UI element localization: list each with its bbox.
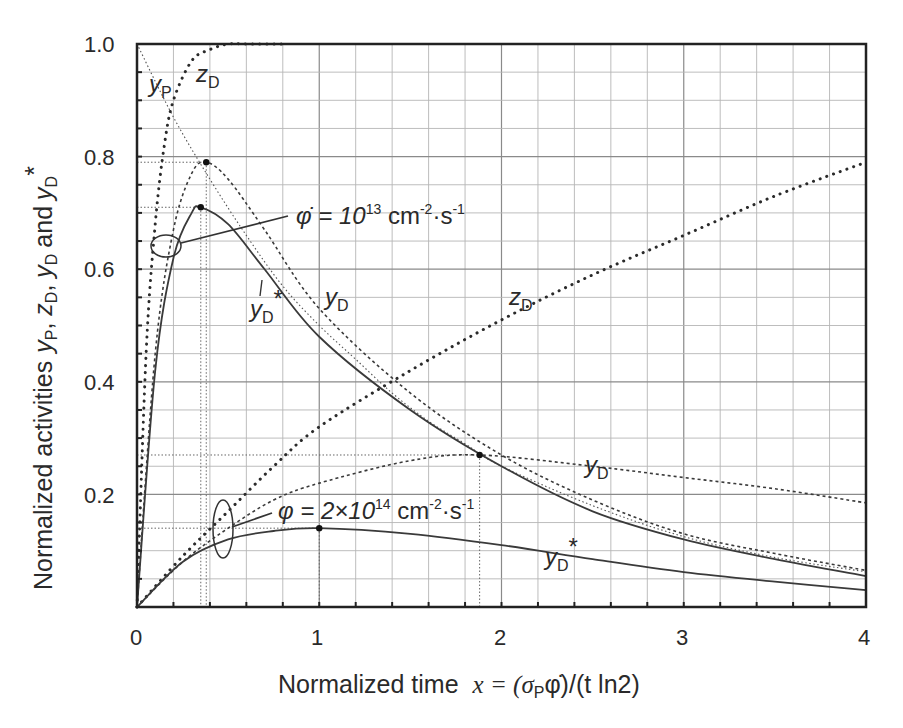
marker-point	[476, 452, 482, 458]
annotation-leader-low-flux	[232, 513, 272, 527]
x-axis-title: Normalized timex = (σPφ̇)/(t ln2)	[278, 670, 640, 701]
annotation-low-flux: φ = 2×1014 cm-2·s-1	[278, 496, 474, 524]
label-yP: yP	[147, 70, 172, 101]
yDstar-pointer	[260, 280, 262, 296]
x-tick-3: 3	[676, 625, 688, 650]
y-tick-0.4: 0.4	[84, 370, 115, 395]
y-tick-0.2: 0.2	[84, 483, 115, 508]
label-yDstar-high: yD*	[248, 285, 283, 326]
axis-ticks	[137, 72, 830, 607]
y-tick-0.6: 0.6	[84, 257, 115, 282]
activity-chart: 1.0 0.8 0.6 0.4 0.2 0 1 2 3 4 Normalized…	[0, 0, 903, 728]
x-tick-4: 4	[858, 625, 870, 650]
x-tick-labels: 0 1 2 3 4	[130, 625, 870, 650]
label-yD-high: yD	[323, 283, 349, 314]
label-zD-top: zD	[195, 60, 220, 91]
y-tick-1.0: 1.0	[84, 32, 115, 57]
marker-point	[203, 159, 209, 165]
x-tick-0: 0	[130, 625, 142, 650]
x-tick-2: 2	[494, 625, 506, 650]
annotation-high-flux: φ̇ = 1013 cm-2·s-1	[296, 201, 465, 229]
annotation-leader-high-flux	[181, 216, 288, 243]
x-tick-1: 1	[311, 625, 323, 650]
y-tick-labels: 1.0 0.8 0.6 0.4 0.2	[84, 32, 115, 508]
y-axis-title: Normalized activitiesyP, zD, yDandyD*	[20, 166, 60, 590]
marker-point	[316, 525, 322, 531]
label-zD-low: zD	[508, 283, 533, 314]
annotation-ellipse-low-flux	[213, 500, 233, 558]
y-tick-0.8: 0.8	[84, 145, 115, 170]
marker-point	[198, 204, 204, 210]
label-yD-low: yD	[583, 451, 609, 482]
